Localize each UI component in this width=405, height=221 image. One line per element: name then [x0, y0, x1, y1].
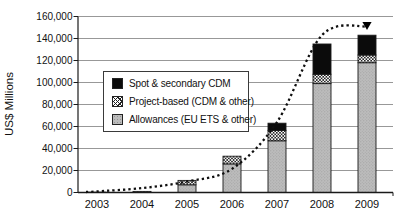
bar-segment [313, 74, 331, 83]
x-tick-label: 2003 [85, 198, 109, 210]
legend-label: Project-based (CDM & other) [129, 96, 254, 107]
x-tick-label: 2004 [130, 198, 154, 210]
x-tick-label: 2009 [355, 198, 379, 210]
y-tick-label: 20,000 [42, 165, 73, 176]
y-tick-label: 0 [67, 187, 73, 198]
bar-segment [223, 156, 241, 164]
y-tick-label: 40,000 [42, 143, 73, 154]
y-tick-label: 140,000 [36, 33, 73, 44]
bar-segment [313, 44, 331, 74]
x-tick-label: 2006 [220, 198, 244, 210]
bar-segment [358, 35, 376, 55]
y-tick-label: 80,000 [42, 99, 73, 110]
bar-segment [358, 55, 376, 63]
y-tick-label: 160,000 [36, 11, 73, 22]
y-tick-label: 60,000 [42, 121, 73, 132]
x-tick-label: 2005 [175, 198, 199, 210]
y-tick-label: 100,000 [36, 77, 73, 88]
bar-segment [268, 123, 286, 130]
bar-segment [358, 63, 376, 193]
y-axis-title: US$ Millions [3, 72, 15, 136]
carbon-market-chart: 020,00040,00060,00080,000100,000120,0001… [0, 0, 405, 221]
legend-swatch-crosshatch-icon [112, 96, 123, 107]
legend-label: Allowances (EU ETS & other) [129, 114, 256, 125]
x-tick-label: 2007 [265, 198, 289, 210]
legend-swatch-gray-stipple-icon [112, 114, 123, 125]
legend: Spot & secondary CDMProject-based (CDM &… [103, 71, 249, 132]
x-tick-label: 2008 [310, 198, 334, 210]
legend-label: Spot & secondary CDM [129, 78, 231, 89]
y-tick-label: 120,000 [36, 55, 73, 66]
legend-item: Project-based (CDM & other) [112, 96, 246, 107]
legend-item: Allowances (EU ETS & other) [112, 114, 246, 125]
legend-swatch-solid-black-icon [112, 78, 123, 89]
bar-segment [268, 141, 286, 193]
bar-segment [178, 185, 196, 193]
legend-item: Spot & secondary CDM [112, 78, 246, 89]
bar-segment [313, 84, 331, 193]
